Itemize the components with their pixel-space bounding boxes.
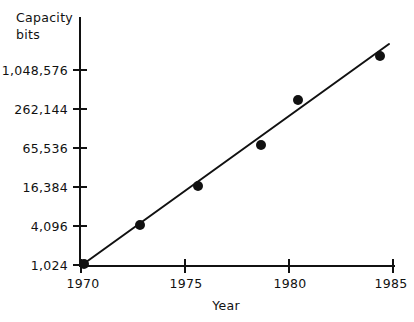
trend-line [82,44,389,265]
x-tick-label-1970: 1970 [66,276,99,291]
y-tick-label-4096: 4,096 [31,219,68,234]
y-axis-title-line2: bits [16,27,40,42]
data-point [293,95,303,105]
chart-svg: Capacity bits 1,048,576 262,144 65,536 1… [0,0,414,322]
y-tick-label-1048576: 1,048,576 [2,63,68,78]
data-point [375,51,385,61]
x-tick-label-1985: 1985 [374,276,407,291]
y-axis-title-line1: Capacity [16,10,73,25]
x-tick-label-1975: 1975 [169,276,202,291]
x-axis-title: Year [211,298,240,313]
y-tick-label-65536: 65,536 [22,141,68,156]
data-point [193,181,203,191]
x-tick-label-1980: 1980 [273,276,306,291]
y-tick-label-1024: 1,024 [31,258,68,273]
data-point [79,259,89,269]
data-point [135,220,145,230]
data-point [256,140,266,150]
y-tick-label-262144: 262,144 [14,102,68,117]
capacity-vs-year-chart: Capacity bits 1,048,576 262,144 65,536 1… [0,0,414,322]
y-tick-label-16384: 16,384 [22,180,68,195]
